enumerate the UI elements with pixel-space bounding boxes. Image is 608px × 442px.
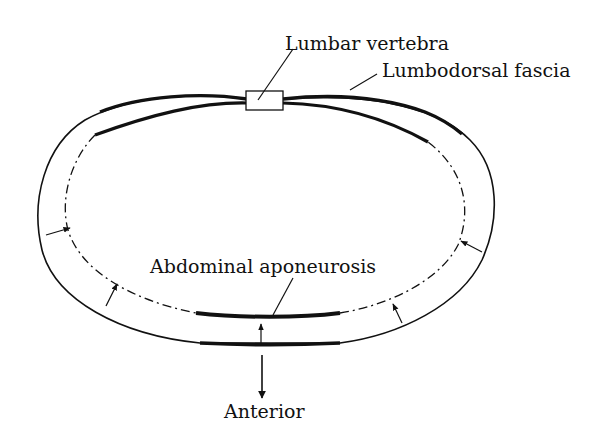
leader-abdominal-aponeurosis [273,278,293,315]
lumbodorsal-fascia-outer-right [283,97,462,134]
pressure-arrow-bottom-left [106,284,117,306]
pressure-arrow-bottom-right [393,304,402,323]
pressure-arrow-right [461,241,482,252]
lumbar-vertebra-box [246,91,283,110]
label-abdominal-aponeurosis: Abdominal aponeurosis [150,257,376,276]
abdominal-aponeurosis-inner [196,313,340,317]
label-anterior: Anterior [224,402,305,421]
label-lumbar-vertebra: Lumbar vertebra [285,34,449,53]
leader-lumbodorsal-fascia [350,74,377,90]
inner-dash-dot-contour [65,135,464,313]
abdominal-aponeurosis-outer [200,343,340,345]
lumbodorsal-fascia-inner-left [95,103,247,135]
lumbodorsal-fascia-inner-right [283,103,428,142]
label-lumbodorsal-fascia: Lumbodorsal fascia [382,61,571,80]
pressure-arrow-left [46,228,70,235]
